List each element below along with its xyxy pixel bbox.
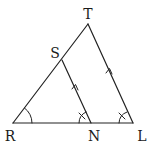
angle-arc-icon-R bbox=[25, 108, 33, 123]
triangle-diagram: T S R N L bbox=[0, 0, 149, 148]
vertex-label-R: R bbox=[5, 128, 16, 144]
vertex-label-N: N bbox=[88, 128, 100, 144]
vertex-label-S: S bbox=[50, 45, 60, 61]
segment-SN bbox=[62, 60, 91, 123]
vertex-label-L: L bbox=[137, 128, 146, 144]
side-TL bbox=[88, 24, 133, 123]
vertex-label-T: T bbox=[83, 6, 93, 22]
